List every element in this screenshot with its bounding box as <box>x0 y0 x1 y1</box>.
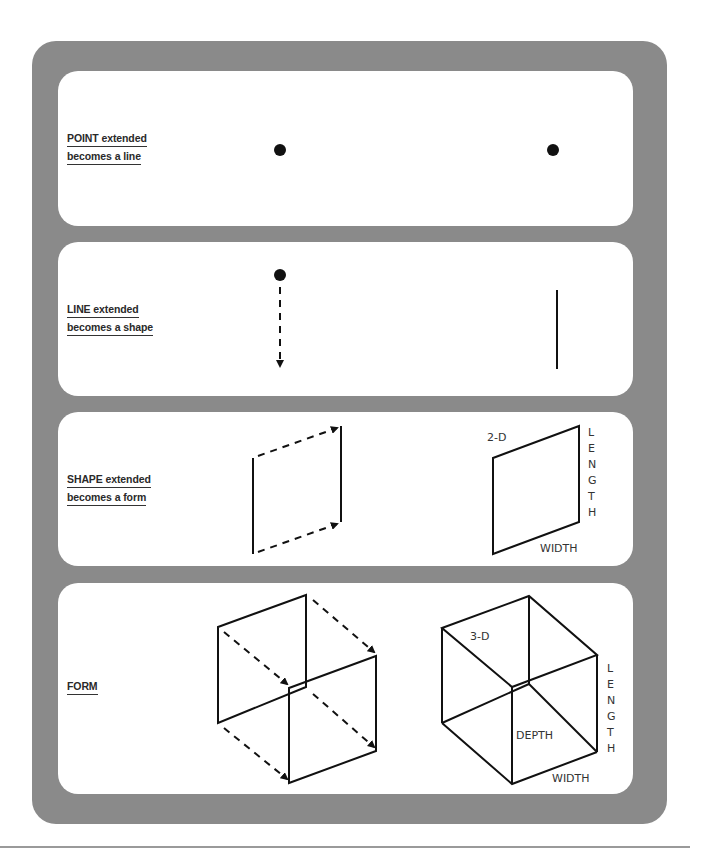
shape-caption: SHAPE extended becomes a form <box>67 472 151 508</box>
form-caption: FORM <box>67 679 98 697</box>
panel-line: LINE extended becomes a shape <box>58 242 633 396</box>
panel-shape: SHAPE extended becomes a form <box>58 412 633 566</box>
point-caption: POINT extended becomes a line <box>67 131 147 167</box>
point-caption-line1: POINT extended <box>67 131 147 147</box>
panel-point: POINT extended becomes a line <box>58 71 633 226</box>
shape-caption-line1: SHAPE extended <box>67 472 151 488</box>
line-caption-line1: LINE extended <box>67 302 139 318</box>
point-caption-line2: becomes a line <box>67 149 141 165</box>
panel-form: FORM <box>58 583 633 794</box>
form-caption-line1: FORM <box>67 679 98 695</box>
line-caption-line2: becomes a shape <box>67 320 153 336</box>
page-divider <box>0 846 690 848</box>
line-caption: LINE extended becomes a shape <box>67 302 153 338</box>
shape-caption-line2: becomes a form <box>67 490 146 506</box>
